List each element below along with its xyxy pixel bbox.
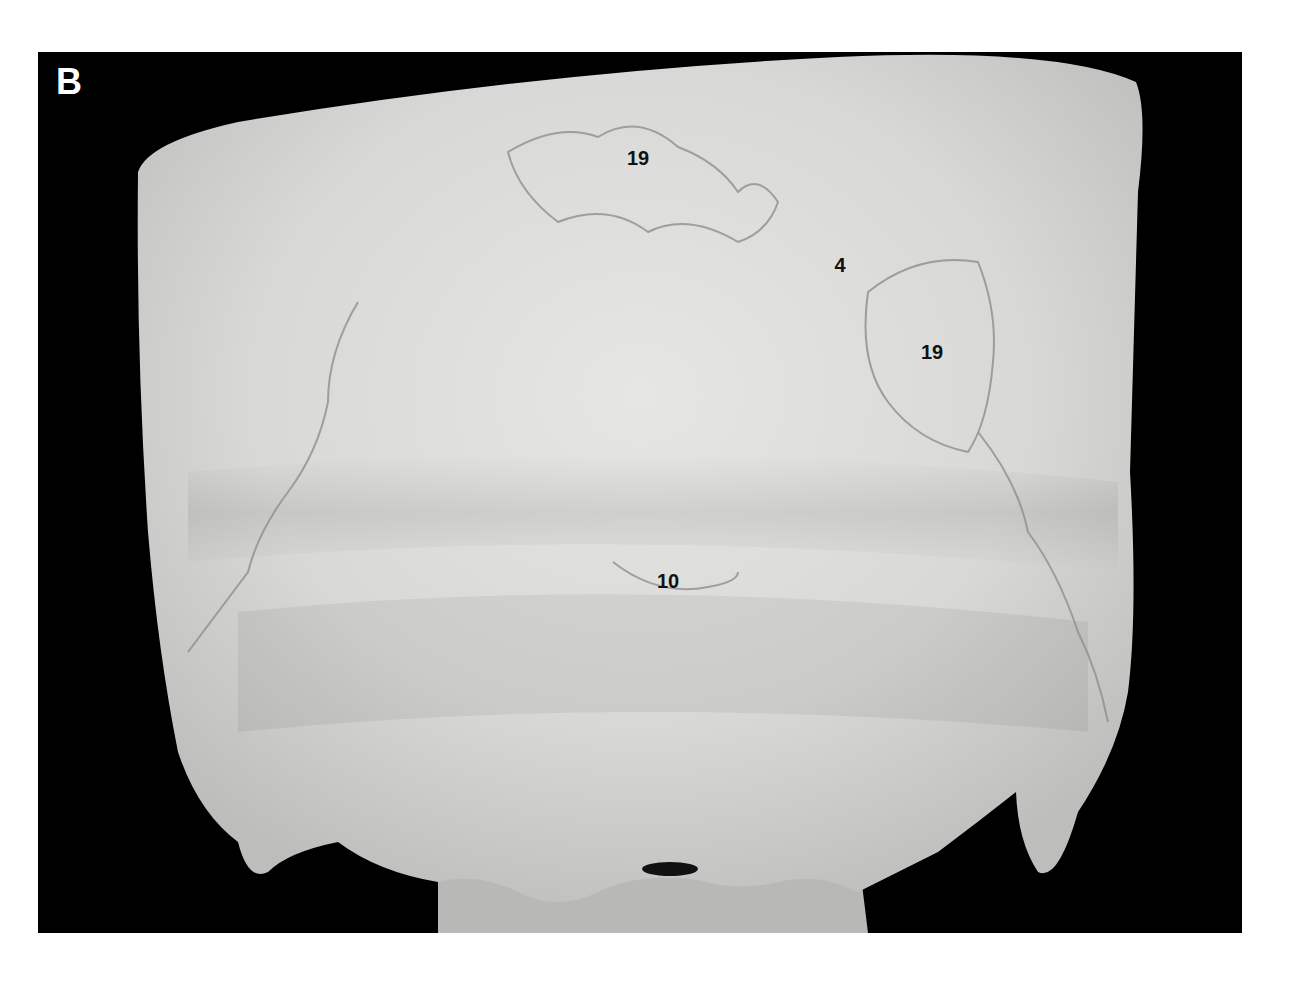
annotation-label: 4	[834, 255, 845, 275]
skull-illustration	[38, 52, 1242, 933]
panel-letter: B	[56, 64, 82, 100]
annotation-label: 19	[921, 342, 943, 362]
annotation-label: 19	[627, 148, 649, 168]
figure-panel: B	[38, 52, 1242, 933]
annotation-label: 10	[657, 571, 679, 591]
